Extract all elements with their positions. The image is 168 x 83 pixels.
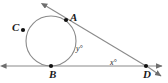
geometry-figure: A B C D y° x° — [0, 0, 168, 83]
point-a-dot — [64, 18, 68, 22]
point-label-b: B — [49, 69, 56, 80]
tangent-line-through-a — [46, 6, 146, 66]
angle-label-y: y° — [76, 45, 83, 53]
point-label-d: D — [143, 69, 151, 80]
point-c-dot — [21, 28, 25, 32]
point-label-a: A — [70, 12, 77, 23]
point-label-c: C — [12, 22, 19, 33]
angle-label-x: x° — [110, 59, 117, 67]
circle-shape — [26, 16, 76, 66]
